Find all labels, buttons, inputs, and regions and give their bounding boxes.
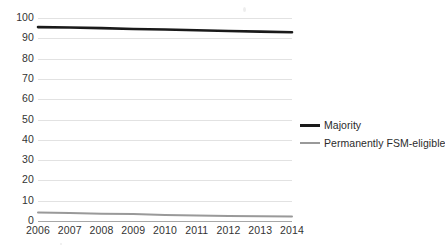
x-tick-label: 2010 — [148, 224, 182, 236]
y-tick-label: 40 — [4, 134, 34, 145]
y-tick-label: 70 — [4, 73, 34, 84]
y-tick-label: 60 — [4, 93, 34, 104]
scan-speck — [60, 243, 62, 245]
plot-area — [38, 18, 292, 221]
x-tick-label: 2012 — [212, 224, 246, 236]
legend-swatch-fsm — [300, 142, 320, 144]
chart-legend: Majority Permanently FSM-eligible — [300, 116, 440, 152]
x-tick-label: 2007 — [53, 224, 87, 236]
y-tick-label: 10 — [4, 195, 34, 206]
x-tick-label: 2008 — [85, 224, 119, 236]
legend-label-majority: Majority — [324, 119, 361, 131]
x-tick-label: 2011 — [180, 224, 214, 236]
x-tick-label: 2009 — [116, 224, 150, 236]
x-tick-label: 2014 — [275, 224, 309, 236]
y-tick-label: 100 — [4, 12, 34, 23]
legend-label-fsm: Permanently FSM-eligible — [324, 137, 445, 149]
y-tick-label: 20 — [4, 174, 34, 185]
axis-baseline — [38, 221, 292, 222]
y-tick-label: 30 — [4, 154, 34, 165]
x-axis: 200620072008200920102011201220132014 — [38, 224, 292, 240]
x-tick-label: 2006 — [21, 224, 55, 236]
series-lines — [38, 18, 292, 221]
legend-swatch-majority — [300, 124, 320, 127]
y-tick-label: 50 — [4, 114, 34, 125]
series-line — [38, 27, 292, 32]
series-line — [38, 212, 292, 216]
legend-item-majority: Majority — [300, 116, 440, 134]
y-tick-label: 80 — [4, 53, 34, 64]
y-axis: 0102030405060708090100 — [0, 18, 34, 221]
scan-speck — [243, 7, 246, 12]
y-tick-label: 90 — [4, 32, 34, 43]
x-tick-label: 2013 — [243, 224, 277, 236]
legend-item-fsm: Permanently FSM-eligible — [300, 134, 440, 152]
